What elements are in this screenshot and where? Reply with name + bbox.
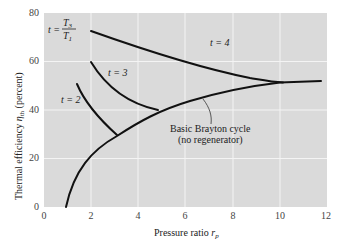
- y-tick: 80: [29, 7, 39, 18]
- x-tick: 4: [136, 210, 141, 221]
- x-axis-label: Pressure ratio rp: [154, 227, 219, 240]
- y-tick: 20: [29, 152, 39, 163]
- x-tick: 2: [89, 210, 94, 221]
- t4-label: t = 4: [210, 37, 230, 48]
- chart: 0 20 40 60 80 0 2 4 6 8 10 12 Pressure r…: [0, 0, 344, 248]
- y-tick: 60: [29, 55, 39, 66]
- y-tick: 40: [29, 104, 39, 115]
- t3-label: t = 3: [108, 67, 128, 78]
- y-axis-ticks: 0 20 40 60 80: [29, 7, 39, 212]
- t-definition-label: t =: [48, 24, 60, 35]
- x-tick: 8: [231, 210, 236, 221]
- x-tick: 10: [275, 210, 285, 221]
- y-axis-label: Thermal efficiency ηth (percent): [13, 72, 26, 200]
- x-tick: 6: [183, 210, 188, 221]
- x-tick: 12: [321, 210, 331, 221]
- brayton-label-line2: (no regenerator): [178, 134, 243, 146]
- y-tick: 0: [34, 201, 39, 212]
- t2-label: t = 2: [61, 94, 81, 105]
- x-axis-ticks: 0 2 4 6 8 10 12: [42, 210, 332, 221]
- brayton-label-line1: Basic Brayton cycle: [170, 123, 251, 134]
- x-tick: 0: [42, 210, 47, 221]
